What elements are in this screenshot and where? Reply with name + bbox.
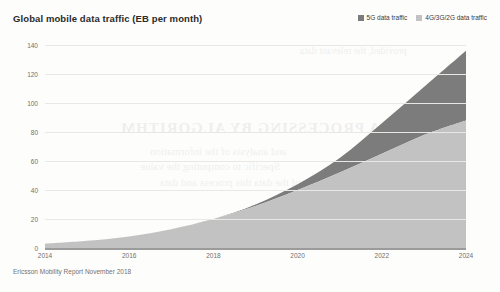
plot-area: [45, 45, 466, 248]
legend-swatch-5g: [358, 15, 364, 21]
x-axis-tick-label: 2024: [459, 252, 473, 259]
y-axis-tick-label: 20: [0, 216, 38, 223]
x-axis-tick-label: 2016: [122, 252, 136, 259]
legend-label-5g: 5G data traffic: [367, 14, 408, 21]
y-axis-tick-label: 100: [0, 100, 38, 107]
gridline: [45, 45, 466, 46]
legend-item-legacy: 4G/3G/2G data traffic: [416, 14, 487, 21]
y-axis-tick-label: 0: [0, 245, 38, 252]
y-axis-tick-label: 140: [0, 42, 38, 49]
legend-item-5g: 5G data traffic: [358, 14, 408, 21]
y-axis-labels: 020406080100120140: [0, 45, 38, 248]
gridline: [45, 219, 466, 220]
y-axis-tick-label: 80: [0, 129, 38, 136]
source-caption: Ericsson Mobility Report November 2018: [13, 268, 131, 275]
gridline: [45, 132, 466, 133]
y-axis-tick-label: 120: [0, 71, 38, 78]
gridline: [45, 161, 466, 162]
legend-label-legacy: 4G/3G/2G data traffic: [425, 14, 487, 21]
gridline: [45, 74, 466, 75]
x-axis-tick-label: 2014: [38, 252, 52, 259]
gridline: [45, 103, 466, 104]
x-axis-tick-label: 2018: [206, 252, 220, 259]
x-axis-labels: 201420162018202020222024: [0, 252, 500, 266]
gridline: [45, 190, 466, 191]
chart-page: AT A PROCESSING BY ALGORITHM and analysi…: [0, 0, 500, 292]
y-axis-tick-label: 60: [0, 158, 38, 165]
x-axis-tick-label: 2022: [375, 252, 389, 259]
x-axis-tick-label: 2020: [290, 252, 304, 259]
area-chart-svg: [45, 45, 466, 248]
y-axis-tick-label: 40: [0, 187, 38, 194]
legend-swatch-legacy: [416, 15, 422, 21]
chart-legend: 5G data traffic 4G/3G/2G data traffic: [358, 14, 487, 21]
x-axis-line: [45, 248, 466, 250]
chart-title: Global mobile data traffic (EB per month…: [13, 13, 202, 24]
